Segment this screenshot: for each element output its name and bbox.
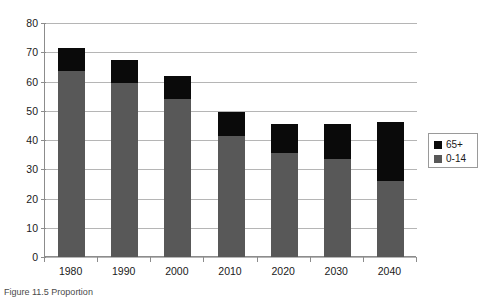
x-axis: 1980199020002010202020302040 [44,257,416,281]
bar-segment-65plus [377,122,404,181]
legend-swatch-65plus [434,141,442,149]
bar-segment-65plus [111,60,138,83]
y-axis-tick-label: 40 [26,135,38,146]
x-axis-tick-label: 1980 [59,266,82,277]
chart-legend: 65+ 0-14 [428,133,478,168]
y-axis-tick-label: 10 [26,223,38,234]
plot-area: 01020304050607080 [44,23,416,257]
legend-label-65plus: 65+ [446,140,463,150]
bar-segment-65plus [324,124,351,159]
bar-segment-65plus [218,112,245,135]
x-axis-tick-label: 2000 [165,266,188,277]
x-axis-tick [310,257,311,262]
y-axis-tick-label: 70 [26,47,38,58]
bar-segment-0-14 [58,71,85,257]
bar-segment-0-14 [377,181,404,257]
bar-segment-65plus [58,48,85,71]
y-axis-tick-label: 80 [26,18,38,29]
x-axis-tick-label: 2040 [378,266,401,277]
x-axis-tick-label: 2030 [325,266,348,277]
legend-item-0-14: 0-14 [434,152,477,165]
bar-segment-65plus [164,76,191,99]
y-axis-tick-label: 20 [26,193,38,204]
bar-segment-0-14 [111,83,138,257]
x-axis-tick [97,257,98,262]
bars-layer [45,23,417,257]
x-axis-tick-label: 2010 [218,266,241,277]
x-axis-tick [203,257,204,262]
x-axis-tick-label: 2020 [271,266,294,277]
x-axis-tick [150,257,151,262]
bar-segment-0-14 [324,159,351,257]
x-axis-tick [257,257,258,262]
y-axis-tick-label: 30 [26,164,38,175]
bar-segment-0-14 [164,99,191,257]
x-axis-tick-label: 1990 [112,266,135,277]
legend-item-65plus: 65+ [434,138,477,151]
legend-swatch-0-14 [434,155,442,163]
y-axis-tick-label: 50 [26,106,38,117]
x-axis-tick [363,257,364,262]
legend-label-0-14: 0-14 [446,154,466,164]
x-axis-tick [44,257,45,262]
bar-segment-0-14 [218,136,245,257]
figure-caption: Figure 11.5 Proportion [4,288,93,297]
bar-segment-65plus [271,124,298,153]
y-axis-tick-label: 60 [26,76,38,87]
y-axis-tick-label: 0 [32,252,38,263]
bar-segment-0-14 [271,153,298,257]
x-axis-tick [416,257,417,262]
